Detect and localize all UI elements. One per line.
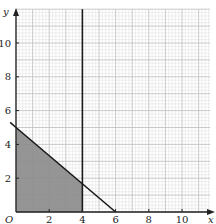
x-tick-label: 10 (176, 214, 189, 224)
x-tick-label: 8 (146, 214, 152, 224)
y-tick-label: 4 (5, 139, 11, 150)
y-axis-label: y (2, 6, 9, 17)
origin-label: O (5, 214, 13, 224)
y-tick-label: 6 (5, 105, 11, 116)
x-axis-label: x (208, 214, 214, 224)
y-tick-label: 2 (5, 173, 11, 184)
y-tick-label: 10 (0, 38, 11, 49)
graph-canvas: 246810246810Oxy (0, 0, 216, 224)
y-tick-label: 8 (5, 71, 11, 82)
x-tick-label: 6 (112, 214, 118, 224)
x-tick-label: 4 (79, 214, 85, 224)
linear-programming-graph: 246810246810Oxy (0, 0, 216, 224)
x-tick-label: 2 (46, 214, 52, 224)
